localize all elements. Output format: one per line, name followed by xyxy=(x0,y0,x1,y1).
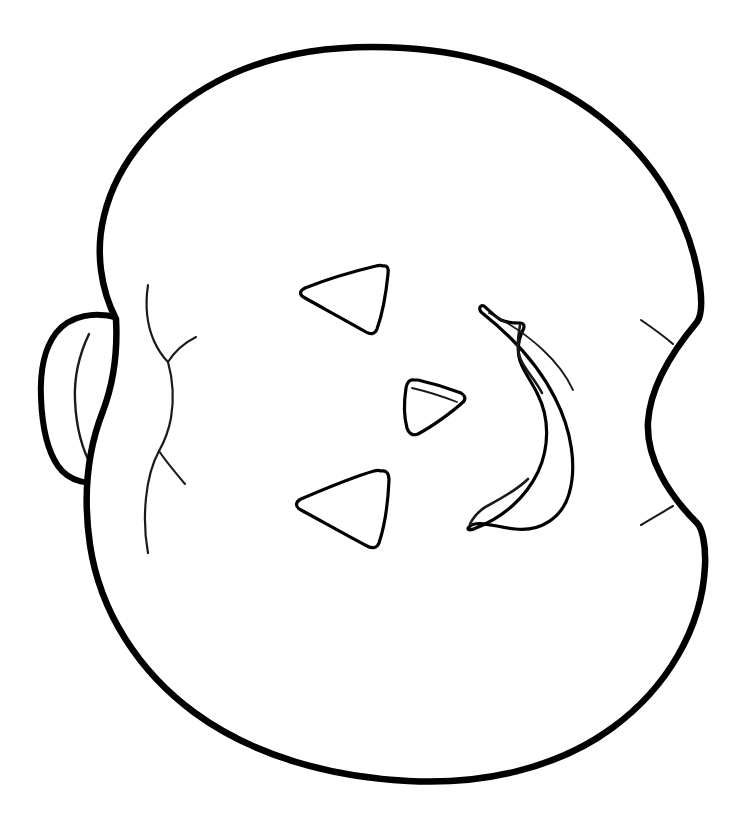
pumpkin-line-drawing xyxy=(0,0,755,816)
artboard xyxy=(0,0,755,816)
body-outline xyxy=(87,47,705,782)
pumpkin-body xyxy=(87,47,705,782)
